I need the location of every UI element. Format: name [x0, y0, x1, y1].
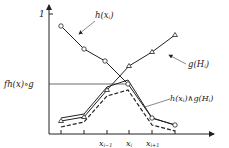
min-annotation-line [145, 99, 170, 107]
g-annotation-arrow [169, 55, 186, 64]
min-annotation-label: h(xi)∧g(Hi) [170, 94, 213, 103]
min-curve-dashed [61, 90, 175, 131]
g-curve [61, 35, 175, 121]
h-markers [59, 24, 177, 127]
y-tick-label: 1 [39, 9, 45, 19]
reference-label: fh(x)∘g [3, 79, 34, 89]
axes [49, 5, 214, 134]
g-annotation-label: g(Hi) [188, 59, 209, 69]
tick-label-xi: xi [126, 139, 133, 148]
h-annotation-arrow [79, 21, 95, 34]
h-annotation-label: h(xi) [95, 10, 114, 20]
h-curve [61, 26, 175, 125]
tick-label-xim1: xi−1 [99, 139, 113, 148]
fuzzy-intersection-diagram: 1 xi−1 xi xi+1 fh(x)∘g h(xi) g(Hi) h(xi)… [0, 0, 229, 148]
tick-label-xip1: xi+1 [146, 139, 160, 148]
x-ticks [61, 130, 175, 134]
